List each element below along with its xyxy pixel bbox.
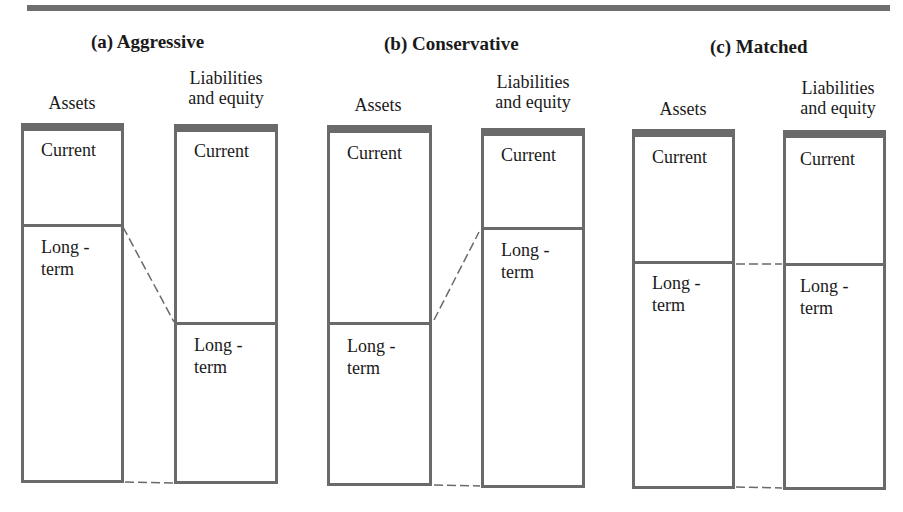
assets-box: Current Long - term — [327, 125, 432, 486]
liabilities-header-line1: Liabilities — [784, 78, 892, 98]
label-line1: Long - — [347, 335, 396, 357]
label-line2: term — [652, 294, 701, 316]
liabilities-longterm-label: Long - term — [501, 239, 550, 283]
liabilities-header-line1: Liabilities — [479, 72, 587, 92]
liabilities-header: Liabilities and equity — [479, 72, 587, 112]
assets-longterm-label: Long - term — [41, 236, 90, 280]
label-line1: Long - — [41, 236, 90, 258]
liabilities-box: Current Long - term — [783, 130, 886, 490]
assets-divider — [24, 224, 121, 227]
liabilities-header: Liabilities and equity — [172, 68, 280, 108]
assets-longterm-label: Long - term — [347, 335, 396, 379]
label-line2: term — [194, 356, 243, 378]
panel-title: (a) Aggressive — [91, 31, 204, 53]
label-line2: term — [41, 258, 90, 280]
liabilities-divider — [786, 263, 883, 266]
label-line1: Long - — [800, 275, 849, 297]
conservative-bottom-connector — [434, 485, 480, 486]
connector-lines — [0, 0, 903, 512]
aggressive-diagonal-connector — [123, 227, 174, 322]
liabilities-header-line2: and equity — [784, 98, 892, 118]
liabilities-longterm-label: Long - term — [194, 334, 243, 378]
label-line2: term — [347, 357, 396, 379]
assets-divider — [330, 322, 429, 325]
assets-divider — [635, 261, 732, 264]
liabilities-current-label: Current — [800, 148, 855, 170]
assets-longterm-label: Long - term — [652, 272, 701, 316]
assets-box: Current Long - term — [632, 129, 735, 489]
panel-title: (b) Conservative — [384, 33, 519, 55]
liabilities-header-line2: and equity — [172, 88, 280, 108]
liabilities-header-line1: Liabilities — [172, 68, 280, 88]
liabilities-box: Current Long - term — [481, 128, 585, 488]
top-rule — [27, 5, 890, 11]
panel-title: (c) Matched — [710, 36, 808, 58]
conservative-diagonal-connector — [434, 232, 479, 320]
assets-current-label: Current — [347, 142, 402, 164]
aggressive-bottom-connector — [125, 482, 173, 483]
liabilities-header: Liabilities and equity — [784, 78, 892, 118]
assets-current-label: Current — [41, 139, 96, 161]
assets-header: Assets — [636, 99, 730, 119]
matched-bottom-connector — [736, 487, 782, 488]
liabilities-header-line2: and equity — [479, 92, 587, 112]
assets-header: Assets — [24, 93, 120, 113]
assets-header: Assets — [332, 95, 424, 115]
assets-box: Current Long - term — [21, 123, 124, 483]
liabilities-box: Current Long - term — [174, 124, 278, 484]
label-line1: Long - — [501, 239, 550, 261]
liabilities-current-label: Current — [194, 140, 249, 162]
label-line1: Long - — [652, 272, 701, 294]
liabilities-longterm-label: Long - term — [800, 275, 849, 319]
liabilities-divider — [177, 322, 275, 325]
label-line1: Long - — [194, 334, 243, 356]
label-line2: term — [800, 297, 849, 319]
liabilities-current-label: Current — [501, 144, 556, 166]
assets-current-label: Current — [652, 146, 707, 168]
liabilities-divider — [484, 227, 582, 230]
label-line2: term — [501, 261, 550, 283]
